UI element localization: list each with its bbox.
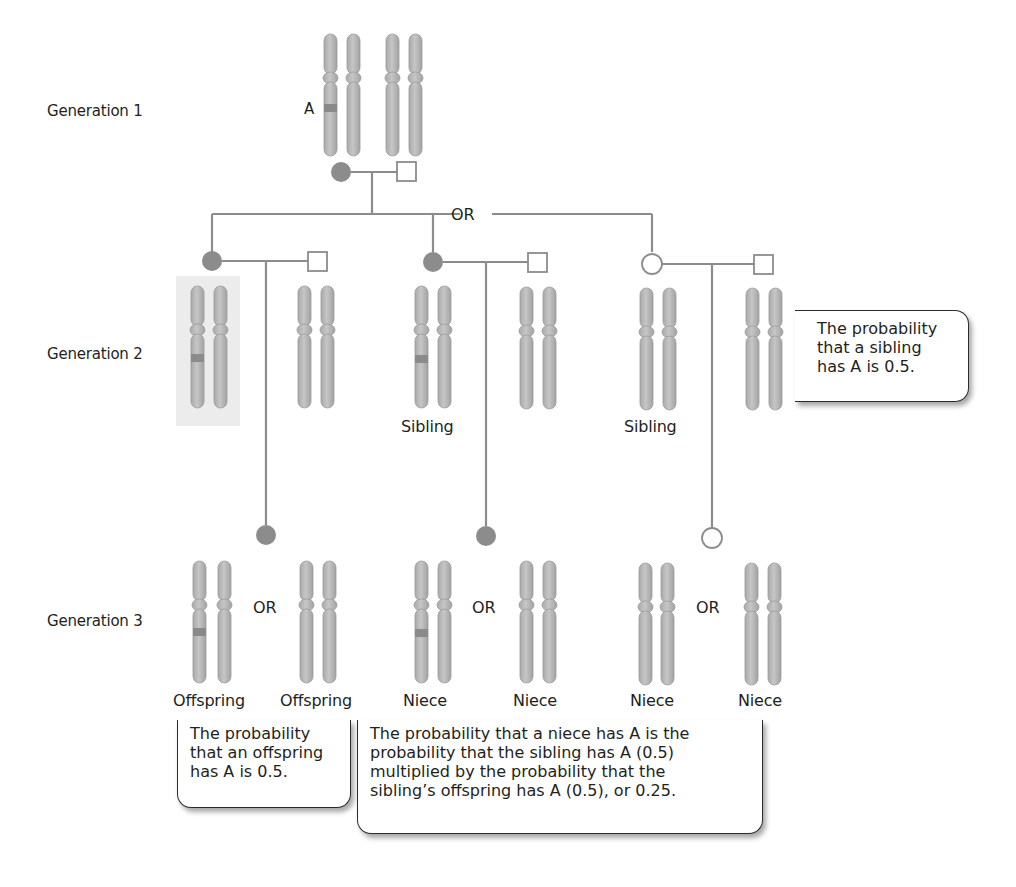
generation-2-label: Generation 2 <box>47 345 143 363</box>
callout-line: sibling’s offspring has A (0.5), or 0.25… <box>370 781 756 800</box>
niece-probability-callout: The probability that a niece has A is th… <box>357 720 763 834</box>
allele-a-band <box>191 354 204 362</box>
generation-1-label: Generation 1 <box>47 102 143 120</box>
sibling-label-1: Sibling <box>401 417 454 436</box>
niece-label-3: Niece <box>630 691 674 710</box>
callout-line: The probability <box>190 724 344 743</box>
or-label-gen2: OR <box>451 205 474 224</box>
allele-a-label: A <box>304 100 314 118</box>
sibling-probability-callout: The probability that a sibling has A is … <box>795 310 969 402</box>
niece-label-4: Niece <box>738 691 782 710</box>
gen2-sibling-unaffected-circle <box>642 254 662 274</box>
niece-label-2: Niece <box>513 691 557 710</box>
gen1-father-square <box>397 162 416 181</box>
callout-line: has A is 0.5. <box>190 762 344 781</box>
offspring-label-1: Offspring <box>173 691 245 710</box>
gen3-offspring-affected-circle <box>256 525 276 545</box>
offspring-probability-callout: The probability that an offspring has A … <box>177 720 351 808</box>
gen2-sibling-affected-circle <box>423 252 443 272</box>
callout-line: that an offspring <box>190 743 344 762</box>
niece-label-1: Niece <box>403 691 447 710</box>
callout-line: that a sibling <box>817 338 960 357</box>
allele-a-band <box>193 628 206 636</box>
gen2-spouse3-square <box>754 255 773 274</box>
offspring-label-2: Offspring <box>280 691 352 710</box>
proband-highlight <box>176 276 240 426</box>
or-label-offspring: OR <box>253 598 276 617</box>
callout-line: multiplied by the probability that the <box>370 762 756 781</box>
callout-line: probability that the sibling has A (0.5) <box>370 743 756 762</box>
callout-line: The probability that a niece has A is th… <box>370 724 756 743</box>
sibling-label-2: Sibling <box>624 417 677 436</box>
or-label-niece-2: OR <box>696 598 719 617</box>
generation-3-label: Generation 3 <box>47 612 143 630</box>
allele-a-band <box>324 104 337 112</box>
or-label-niece-1: OR <box>472 598 495 617</box>
allele-a-band <box>415 355 428 363</box>
gen2-proband-affected-circle <box>202 251 222 271</box>
gen3-niece-affected-circle <box>476 526 496 546</box>
gen2-spouse2-square <box>528 253 547 272</box>
gen1-mother-affected-circle <box>331 162 351 182</box>
callout-line: has A is 0.5. <box>817 357 960 376</box>
callout-line: The probability <box>817 319 960 338</box>
allele-a-band <box>415 629 428 637</box>
gen3-chromosomes <box>192 561 782 685</box>
gen3-niece-unaffected-circle <box>702 528 722 548</box>
gen1-chromosomes <box>323 34 423 156</box>
gen2-spouse1-square <box>308 252 327 271</box>
pedigree-diagram: Generation 1 Generation 2 Generation 3 A… <box>0 0 1016 887</box>
